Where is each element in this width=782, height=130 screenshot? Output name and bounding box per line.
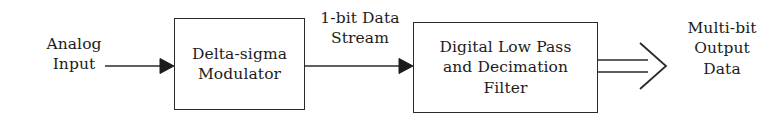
input-arrow-head-icon <box>160 59 174 74</box>
output-arrow-head-icon <box>640 43 666 89</box>
intermediate-arrow-head-icon <box>399 59 413 74</box>
input-arrow <box>105 59 174 74</box>
output-arrow <box>598 43 666 89</box>
block-diagram: Analog Input Delta-sigma Modulator 1-bit… <box>0 0 782 130</box>
intermediate-arrow <box>305 59 413 74</box>
connector-layer <box>0 0 782 130</box>
